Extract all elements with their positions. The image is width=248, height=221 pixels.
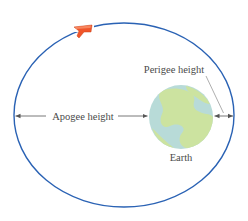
earth-icon — [149, 85, 214, 149]
earth-label: Earth — [170, 152, 193, 163]
perigee-label: Perigee height — [144, 64, 204, 75]
apogee-label: Apogee height — [52, 111, 114, 122]
orbit-diagram: Apogee height Perigee height Earth — [0, 0, 248, 221]
